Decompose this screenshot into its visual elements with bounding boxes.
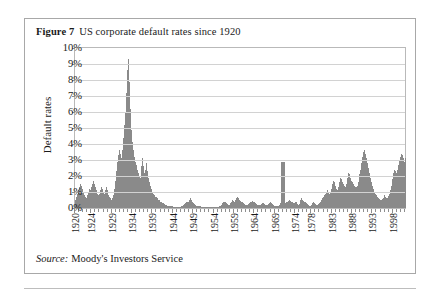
- x-tick-minor: [343, 209, 344, 212]
- x-tick-minor: [135, 209, 136, 212]
- x-tick-label: 1978: [306, 213, 317, 233]
- x-tick-minor: [164, 209, 165, 212]
- x-tick-minor: [363, 209, 364, 212]
- x-axis-labels: 1920192419291934193919441949195419591964…: [74, 213, 406, 247]
- x-tick-minor: [86, 209, 87, 212]
- x-tick-minor: [229, 209, 230, 212]
- x-tick-minor: [323, 209, 324, 212]
- x-tick-minor: [176, 209, 177, 212]
- y-tick-label: 9%: [42, 58, 82, 69]
- gridline: [75, 80, 405, 81]
- gridline: [75, 144, 405, 145]
- gridline: [75, 192, 405, 193]
- gridline: [75, 160, 405, 161]
- x-tick-minor: [82, 209, 83, 212]
- x-tick-minor: [115, 209, 116, 212]
- gridline: [75, 64, 405, 65]
- x-tick-minor: [188, 209, 189, 212]
- x-tick-minor: [355, 209, 356, 212]
- gridline: [75, 128, 405, 129]
- x-tick-minor: [221, 209, 222, 212]
- x-tick-minor: [327, 209, 328, 212]
- x-tick-minor: [257, 209, 258, 212]
- x-tick-label: 1954: [209, 213, 220, 233]
- y-tick-label: 2%: [42, 170, 82, 181]
- x-tick-label: 1993: [367, 213, 378, 233]
- figure-title: Figure 7US corporate default rates since…: [36, 26, 241, 37]
- x-tick-minor: [278, 209, 279, 212]
- x-tick-minor: [282, 209, 283, 212]
- chart-area: Default rates 19201924192919341939194419…: [25, 41, 417, 249]
- x-tick-minor: [123, 209, 124, 212]
- x-tick-minor: [143, 209, 144, 212]
- y-tick-label: 6%: [42, 106, 82, 117]
- x-tick-minor: [335, 209, 336, 212]
- x-tick-minor: [204, 209, 205, 212]
- source-label: Source:: [36, 253, 68, 264]
- x-tick-minor: [404, 209, 405, 212]
- x-tick-minor: [245, 209, 246, 212]
- y-tick-label: 4%: [42, 138, 82, 149]
- x-tick-minor: [180, 209, 181, 212]
- x-tick-label: 1974: [290, 213, 301, 233]
- x-tick-minor: [265, 209, 266, 212]
- figure-number: Figure 7: [36, 26, 74, 37]
- x-tick-minor: [359, 209, 360, 212]
- x-tick-minor: [396, 209, 397, 212]
- x-tick-minor: [98, 209, 99, 212]
- x-tick-minor: [290, 209, 291, 212]
- x-tick-minor: [298, 209, 299, 212]
- x-tick-label: 1929: [107, 213, 118, 233]
- x-tick-minor: [306, 209, 307, 212]
- x-tick-minor: [196, 209, 197, 212]
- bar: [405, 158, 406, 208]
- y-tick-label: 3%: [42, 154, 82, 165]
- bar: [284, 162, 285, 208]
- x-tick-minor: [241, 209, 242, 212]
- y-tick-label: 1%: [42, 186, 82, 197]
- x-tick-minor: [380, 209, 381, 212]
- gridline: [75, 112, 405, 113]
- x-tick-label: 1934: [127, 213, 138, 233]
- x-tick-minor: [261, 209, 262, 212]
- x-tick-minor: [127, 209, 128, 212]
- figure-container: Figure 7US corporate default rates since…: [24, 18, 416, 274]
- x-tick-label: 1988: [347, 213, 358, 233]
- x-tick-minor: [318, 209, 319, 212]
- x-tick-label: 1924: [86, 213, 97, 233]
- x-tick-label: 1939: [147, 213, 158, 233]
- x-tick-label: 1959: [229, 213, 240, 233]
- x-tick-minor: [339, 209, 340, 212]
- plot-region: [74, 47, 406, 209]
- gridline: [75, 96, 405, 97]
- x-tick-minor: [107, 209, 108, 212]
- gridline: [75, 176, 405, 177]
- x-tick-minor: [384, 209, 385, 212]
- x-tick-minor: [367, 209, 368, 212]
- x-tick-label: 1944: [168, 213, 179, 233]
- y-tick-label: 5%: [42, 122, 82, 133]
- x-tick-minor: [139, 209, 140, 212]
- x-tick-minor: [200, 209, 201, 212]
- x-tick-minor: [94, 209, 95, 212]
- x-tick-label: 1998: [388, 213, 399, 233]
- x-tick-label: 1949: [188, 213, 199, 233]
- x-tick-minor: [208, 209, 209, 212]
- y-tick-label: 8%: [42, 74, 82, 85]
- x-tick-minor: [217, 209, 218, 212]
- x-tick-label: 1969: [270, 213, 281, 233]
- x-tick-minor: [375, 209, 376, 212]
- y-tick-label: 0%: [42, 202, 82, 213]
- y-tick-label: 7%: [42, 90, 82, 101]
- x-tick-minor: [147, 209, 148, 212]
- x-tick-minor: [314, 209, 315, 212]
- x-tick-minor: [302, 209, 303, 212]
- x-tick-minor: [400, 209, 401, 212]
- bottom-divider: [24, 288, 416, 289]
- x-tick-label: 1983: [327, 213, 338, 233]
- y-tick-label: 10%: [42, 42, 82, 53]
- x-tick-minor: [286, 209, 287, 212]
- x-tick-minor: [160, 209, 161, 212]
- x-tick-minor: [249, 209, 250, 212]
- x-tick-minor: [270, 209, 271, 212]
